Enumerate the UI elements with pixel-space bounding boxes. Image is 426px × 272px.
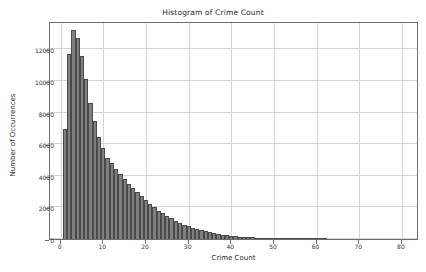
x-tick-label: 40 — [226, 243, 234, 250]
x-tick-label: 10 — [98, 243, 106, 250]
histogram-bar — [323, 238, 327, 239]
x-tick-mark — [102, 240, 103, 244]
y-tick-mark — [45, 145, 49, 146]
x-tick-label: 50 — [269, 243, 277, 250]
x-tick-label: 0 — [58, 243, 62, 250]
y-tick-mark — [45, 177, 49, 178]
y-tick-mark — [45, 208, 49, 209]
x-axis-label: Crime Count — [49, 254, 418, 262]
x-tick-mark — [230, 240, 231, 244]
x-tick-mark — [60, 240, 61, 244]
plot-area — [49, 22, 418, 240]
x-tick-mark — [188, 240, 189, 244]
x-tick-label: 30 — [184, 243, 192, 250]
x-tick-label: 60 — [312, 243, 320, 250]
x-tick-label: 80 — [397, 243, 405, 250]
y-tick-label: 0 — [50, 237, 54, 244]
y-tick-mark — [45, 240, 49, 241]
x-tick-mark — [358, 240, 359, 244]
x-tick-mark — [145, 240, 146, 244]
histogram-figure: Histogram of Crime Count 020004000600080… — [0, 0, 426, 272]
y-tick-mark — [45, 82, 49, 83]
histogram-bars — [50, 23, 417, 239]
x-tick-label: 70 — [354, 243, 362, 250]
chart-title: Histogram of Crime Count — [0, 8, 426, 17]
y-axis-label: Number of Occurrences — [9, 75, 17, 195]
y-tick-mark — [45, 114, 49, 115]
x-tick-mark — [401, 240, 402, 244]
x-tick-label: 20 — [141, 243, 149, 250]
x-tick-mark — [273, 240, 274, 244]
y-tick-mark — [45, 50, 49, 51]
x-tick-mark — [316, 240, 317, 244]
